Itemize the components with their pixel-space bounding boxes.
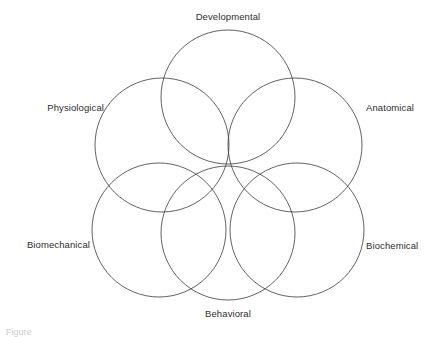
- venn-label-developmental: Developmental: [196, 11, 261, 23]
- venn-label-biomechanical: Biomechanical: [27, 239, 90, 251]
- venn-label-physiological: Physiological: [47, 102, 104, 114]
- venn-label-behavioral: Behavioral: [205, 308, 251, 320]
- figure-caption: Figure: [6, 327, 32, 337]
- venn-label-biochemical: Biochemical: [366, 240, 418, 252]
- venn-label-anatomical: Anatomical: [366, 102, 414, 114]
